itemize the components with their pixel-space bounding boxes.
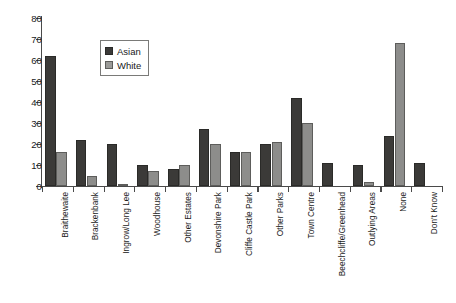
x-axis-tick bbox=[134, 186, 135, 192]
x-axis-tick bbox=[165, 186, 166, 192]
x-axis-label: Ingrow/Long Lee bbox=[122, 192, 131, 254]
bar bbox=[353, 165, 364, 186]
x-axis-label: Cliffe Castle Park bbox=[245, 192, 254, 256]
x-axis-tick bbox=[319, 186, 320, 192]
x-axis-tick bbox=[350, 186, 351, 192]
legend-swatch-white bbox=[105, 61, 113, 69]
bar bbox=[210, 144, 221, 186]
bar bbox=[291, 98, 302, 186]
x-axis-tick bbox=[73, 186, 74, 192]
bar bbox=[199, 129, 210, 186]
bar bbox=[241, 152, 252, 186]
bar bbox=[137, 165, 148, 186]
y-axis-tick-label: 40 bbox=[8, 97, 42, 108]
bar bbox=[45, 56, 56, 186]
bar-chart: 01020304050607080 BraithewaiteBrackenban… bbox=[0, 0, 456, 303]
chart-legend: Asian White bbox=[100, 40, 149, 76]
bar bbox=[395, 43, 406, 186]
x-axis-label: Other Estates bbox=[184, 192, 193, 243]
x-axis-label: Town Centre bbox=[307, 192, 316, 239]
bar bbox=[179, 165, 190, 186]
bar bbox=[414, 163, 425, 186]
bar bbox=[302, 123, 313, 186]
x-axis-label: None bbox=[399, 192, 408, 212]
bar bbox=[87, 176, 98, 187]
bar bbox=[272, 142, 283, 186]
x-axis-tick bbox=[257, 186, 258, 192]
bar bbox=[118, 184, 129, 186]
bar bbox=[384, 136, 395, 186]
bar bbox=[76, 140, 87, 186]
bar bbox=[56, 152, 67, 186]
x-axis-tick bbox=[227, 186, 228, 192]
y-axis-tick-label: 0 bbox=[8, 181, 42, 192]
legend-item-white: White bbox=[105, 58, 141, 72]
x-axis-label: Don't Know bbox=[430, 192, 439, 234]
y-axis-tick-label: 30 bbox=[8, 118, 42, 129]
legend-swatch-asian bbox=[105, 47, 113, 55]
x-axis-label: Beechcliffe/Greenhead bbox=[338, 192, 347, 276]
bar bbox=[107, 144, 118, 186]
x-axis-label: Brackenbank bbox=[91, 192, 100, 240]
bar bbox=[148, 171, 159, 186]
x-axis-label: Woodhouse bbox=[153, 192, 162, 236]
x-axis-tick bbox=[380, 186, 381, 192]
bar bbox=[364, 182, 375, 186]
y-axis-tick-label: 70 bbox=[8, 34, 42, 45]
y-axis-tick-label: 20 bbox=[8, 139, 42, 150]
x-axis-tick bbox=[442, 186, 443, 192]
y-axis-tick-label: 80 bbox=[8, 13, 42, 24]
x-axis-tick bbox=[196, 186, 197, 192]
x-axis-tick bbox=[411, 186, 412, 192]
y-axis-tick-label: 10 bbox=[8, 160, 42, 171]
bar bbox=[260, 144, 271, 186]
y-axis-tick-label: 60 bbox=[8, 55, 42, 66]
x-axis-tick bbox=[288, 186, 289, 192]
x-axis-label: Braithewaite bbox=[61, 192, 70, 238]
x-axis-tick bbox=[42, 186, 43, 192]
x-axis-line bbox=[41, 186, 442, 187]
x-axis-tick bbox=[104, 186, 105, 192]
legend-label-asian: Asian bbox=[117, 46, 141, 57]
x-axis-label: Other Parks bbox=[276, 192, 285, 236]
bar bbox=[230, 152, 241, 186]
bar bbox=[168, 169, 179, 186]
x-axis-label: Outlying Areas bbox=[368, 192, 377, 246]
legend-item-asian: Asian bbox=[105, 44, 141, 58]
bar bbox=[322, 163, 333, 186]
x-axis-label: Devonshire Park bbox=[214, 192, 223, 253]
y-axis-tick-label: 50 bbox=[8, 76, 42, 87]
legend-label-white: White bbox=[117, 60, 141, 71]
